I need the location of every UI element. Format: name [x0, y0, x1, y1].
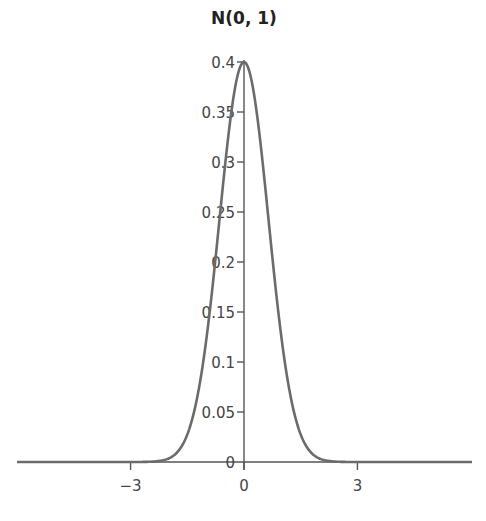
y-tick-label: 0: [225, 454, 235, 472]
y-tick-label: 0.15: [202, 304, 235, 322]
y-ticks: 00.050.10.150.20.250.30.350.4: [202, 54, 244, 472]
y-tick-label: 0.1: [211, 354, 235, 372]
y-tick-label: 0.05: [202, 404, 235, 422]
y-tick-label: 0.4: [211, 54, 235, 72]
chart: N(0, 1) −303 00.050.10.150.20.250.30.350…: [0, 0, 486, 521]
x-ticks: −303: [120, 462, 363, 495]
x-tick-label: 0: [239, 477, 249, 495]
y-tick-label: 0.3: [211, 154, 235, 172]
x-tick-label: −3: [120, 477, 142, 495]
chart-title: N(0, 1): [211, 8, 277, 28]
x-tick-label: 3: [353, 477, 363, 495]
